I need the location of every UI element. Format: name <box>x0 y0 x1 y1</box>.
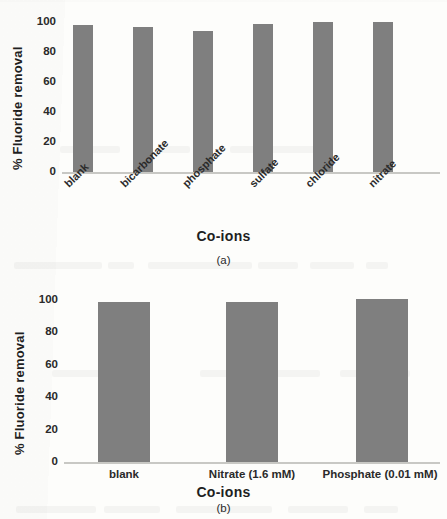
y-tick-label: 0 <box>22 166 56 178</box>
bar-phosphate-0-01-mm <box>356 299 408 462</box>
y-tick-label: 0 <box>24 456 58 468</box>
bar-nitrate-1-6-mm <box>226 302 278 462</box>
y-tick-label: 60 <box>22 76 56 88</box>
figure-panel-b: % Fluoride removal 100 80 60 40 20 0 bla… <box>0 270 447 519</box>
x-tick-label: Phosphate (0.01 mM) <box>322 468 437 480</box>
y-tick-label: 60 <box>24 359 58 371</box>
x-tick-label: Nitrate (1.6 mM) <box>209 468 295 480</box>
y-tick-label: 80 <box>24 326 58 338</box>
y-tick-label: 100 <box>22 16 56 28</box>
plot-area-a: % Fluoride removal 100 80 60 40 20 0 bla… <box>0 0 447 270</box>
panel-caption-a: (a) <box>0 254 447 266</box>
bar-chloride <box>313 22 333 172</box>
x-axis-title-b: Co-ions <box>0 484 447 500</box>
x-axis-line-b <box>64 462 440 464</box>
y-tick-label: 40 <box>24 391 58 403</box>
figure-panel-a: % Fluoride removal 100 80 60 40 20 0 bla… <box>0 0 447 270</box>
bar-blank <box>73 25 93 172</box>
x-axis-title-a: Co-ions <box>0 228 447 244</box>
y-tick-label: 20 <box>24 424 58 436</box>
y-tick-label: 100 <box>24 294 58 306</box>
x-tick-label: blank <box>62 161 91 190</box>
bar-nitrate <box>373 22 393 172</box>
y-tick-label: 80 <box>22 46 56 58</box>
bar-sulfate <box>253 24 273 172</box>
bar-blank <box>98 302 150 462</box>
y-tick-label: 20 <box>22 136 56 148</box>
y-tick-label: 40 <box>22 106 56 118</box>
plot-area-b: % Fluoride removal 100 80 60 40 20 0 bla… <box>0 270 447 519</box>
x-tick-label: blank <box>109 468 139 480</box>
panel-caption-b: (b) <box>0 502 447 514</box>
